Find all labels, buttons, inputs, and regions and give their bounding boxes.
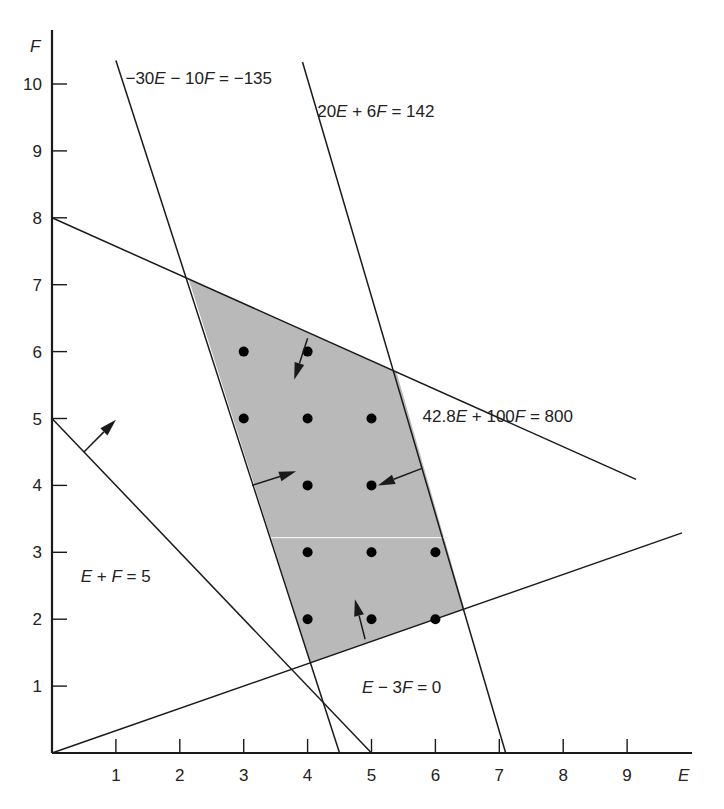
integer-point — [303, 614, 313, 624]
integer-point — [303, 414, 313, 424]
y-tick-label: 1 — [33, 677, 42, 696]
y-tick-label: 10 — [23, 75, 42, 94]
integer-point — [239, 347, 249, 357]
constraint-label-c4: E − 3F = 0 — [362, 678, 441, 697]
y-tick-label: 6 — [33, 343, 42, 362]
integer-point — [367, 614, 377, 624]
x-tick-label: 6 — [431, 766, 440, 785]
linear-program-chart: E F 12345678912345678910 −30E − 10F = −1… — [0, 0, 724, 809]
integer-point — [239, 414, 249, 424]
y-tick-label: 9 — [33, 142, 42, 161]
x-tick-label: 2 — [175, 766, 184, 785]
x-tick-label: 9 — [622, 766, 631, 785]
x-tick-label: 5 — [367, 766, 376, 785]
integer-point — [367, 547, 377, 557]
y-tick-label: 7 — [33, 276, 42, 295]
x-tick-label: 1 — [111, 766, 120, 785]
y-axis-label: F — [30, 37, 42, 56]
x-tick-label: 8 — [558, 766, 567, 785]
constraint-label-c5: E + F = 5 — [81, 567, 151, 586]
integer-point — [430, 614, 440, 624]
integer-point — [367, 414, 377, 424]
arrow-shaft — [84, 432, 104, 452]
x-tick-label: 3 — [239, 766, 248, 785]
integer-point — [367, 480, 377, 490]
y-tick-label: 8 — [33, 209, 42, 228]
y-tick-label: 3 — [33, 543, 42, 562]
integer-point — [430, 547, 440, 557]
y-tick-label: 2 — [33, 610, 42, 629]
constraint-label-c3: 42.8E + 100F = 800 — [423, 407, 573, 426]
constraint-label-c1: −30E − 10F = −135 — [125, 69, 272, 88]
integer-point — [303, 480, 313, 490]
x-tick-label: 4 — [303, 766, 312, 785]
y-tick-label: 4 — [33, 476, 42, 495]
y-tick-label: 5 — [33, 410, 42, 429]
integer-point — [303, 547, 313, 557]
x-tick-label: 7 — [495, 766, 504, 785]
constraint-label-c2: 20E + 6F = 142 — [317, 102, 434, 121]
x-axis-label: E — [678, 766, 690, 785]
